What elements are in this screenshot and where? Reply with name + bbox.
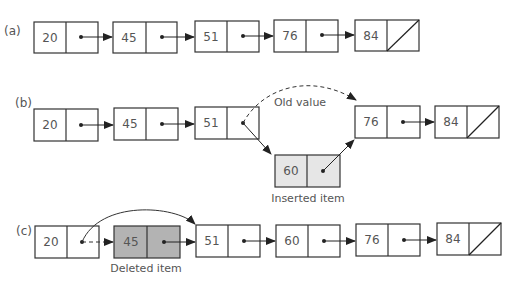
node-value: 51: [203, 30, 218, 44]
inserted-item-caption: Inserted item: [271, 192, 345, 205]
node-value: 76: [364, 233, 379, 247]
diagram-c: (c) 20 45 Deleted item 51 60: [16, 210, 501, 275]
node-value: 20: [43, 235, 58, 249]
node-a-84: 84: [355, 20, 419, 51]
diagram-a: (a) 20 45 51 76: [4, 20, 419, 53]
linked-list-diagram: (a) 20 45 51 76: [0, 0, 516, 288]
deleted-node-45: 45: [114, 226, 195, 258]
node-c-84: 84: [437, 223, 501, 255]
node-value: 45: [122, 117, 137, 131]
node-value: 60: [283, 164, 298, 178]
node-a-76: 76: [274, 20, 354, 52]
node-value: 84: [443, 115, 458, 129]
node-b-84: 84: [435, 106, 499, 138]
node-value: 51: [204, 234, 219, 248]
node-value: 51: [203, 116, 218, 130]
node-c-76: 76: [356, 224, 436, 256]
node-value: 76: [363, 115, 378, 129]
node-b-20: 20: [34, 109, 113, 141]
diagram-label-a: (a): [4, 24, 21, 38]
node-value: 84: [445, 232, 460, 246]
node-c-60: 60: [276, 225, 355, 257]
inserted-node-60: 60: [275, 140, 354, 187]
diagram-b: (b) 20 45 51 Old value: [15, 86, 499, 205]
diagram-label-c: (c): [16, 224, 32, 238]
node-b-45: 45: [114, 108, 194, 140]
node-value: 60: [284, 234, 299, 248]
node-a-45: 45: [113, 22, 194, 53]
node-a-20: 20: [34, 22, 112, 53]
node-value: 20: [42, 31, 57, 45]
node-value: 45: [121, 31, 136, 45]
node-value: 84: [363, 29, 378, 43]
node-value: 20: [42, 118, 57, 132]
deleted-item-caption: Deleted item: [110, 262, 181, 275]
node-b-76: 76: [355, 106, 434, 138]
node-c-51: 51: [196, 225, 275, 257]
old-value-label: Old value: [274, 96, 326, 109]
node-a-51: 51: [195, 21, 273, 52]
node-value: 76: [282, 29, 297, 43]
diagram-label-b: (b): [15, 96, 32, 110]
node-value: 45: [123, 235, 138, 249]
